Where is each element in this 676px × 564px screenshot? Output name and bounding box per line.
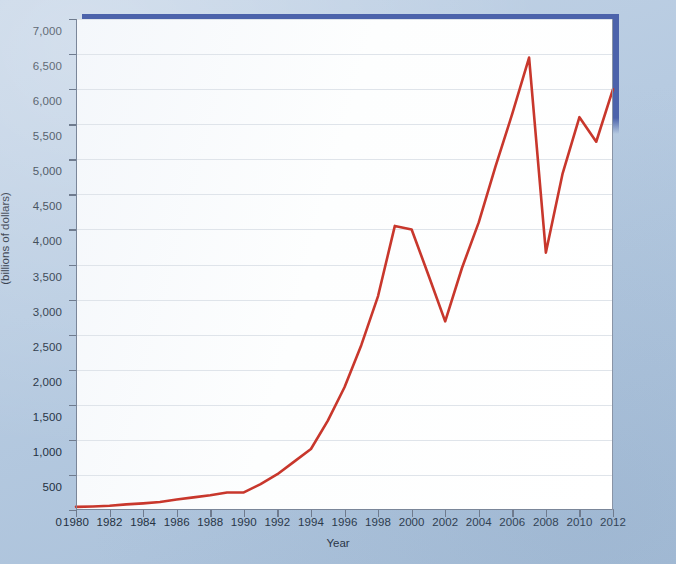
x-axis-tick <box>378 510 379 517</box>
y-axis-tick <box>69 89 76 90</box>
y-axis-line <box>76 19 77 510</box>
y-axis-tick <box>69 300 76 301</box>
x-axis-tick-label: 2006 <box>499 516 525 528</box>
data-series-line <box>76 14 613 510</box>
y-axis-tick <box>69 370 76 371</box>
y-axis-tick-label: 6,000 <box>33 95 62 107</box>
y-axis-tick <box>69 265 76 266</box>
x-axis-tick <box>579 510 580 517</box>
x-axis-tick-label: 1986 <box>164 516 190 528</box>
y-axis-tick-label: 7,000 <box>33 25 62 37</box>
y-axis-tick <box>69 19 76 20</box>
x-axis-tick <box>479 510 480 517</box>
x-axis-tick-label: 1984 <box>130 516 156 528</box>
y-axis-tick-label: 500 <box>43 481 63 493</box>
y-axis-tick <box>69 510 76 511</box>
y-axis-tick-label: 5,500 <box>33 130 62 142</box>
x-axis-tick-label: 2002 <box>432 516 458 528</box>
x-axis-tick <box>210 510 211 517</box>
y-axis-tick-label: 1,000 <box>33 446 62 458</box>
y-axis-tick <box>69 335 76 336</box>
x-axis-tick-label: 2012 <box>600 516 626 528</box>
y-axis-tick-label: 6,500 <box>33 60 62 72</box>
y-axis-title: Value of stocks owned through equity mut… <box>0 9 12 469</box>
y-axis-tick-label: 0 <box>56 516 63 528</box>
chart-figure: 05001,0001,5002,0002,5003,0003,5004,0004… <box>0 0 676 564</box>
x-axis-tick <box>445 510 446 517</box>
plot-frame <box>76 14 613 510</box>
x-axis-tick <box>412 510 413 517</box>
y-axis-tick-label: 1,500 <box>33 411 62 423</box>
x-axis-tick-label: 2008 <box>533 516 559 528</box>
x-axis-tick <box>277 510 278 517</box>
y-axis-tick-label: 3,000 <box>33 306 62 318</box>
y-axis-tick-label: 3,500 <box>33 271 62 283</box>
x-axis-tick-label: 2004 <box>466 516 492 528</box>
y-axis-tick <box>69 54 76 55</box>
x-axis-tick-label: 1998 <box>365 516 391 528</box>
x-axis-tick <box>546 510 547 517</box>
x-axis-tick <box>244 510 245 517</box>
x-axis-tick <box>613 510 614 517</box>
y-axis-tick-label: 2,000 <box>33 376 62 388</box>
x-axis-tick <box>110 510 111 517</box>
x-axis-tick-label: 1988 <box>197 516 223 528</box>
y-axis-tick <box>69 124 76 125</box>
y-axis-tick <box>69 440 76 441</box>
y-axis-tick-label: 2,500 <box>33 341 62 353</box>
y-axis-tick <box>69 194 76 195</box>
x-axis-tick-label: 1982 <box>97 516 123 528</box>
x-axis-line <box>76 509 614 510</box>
x-axis-tick <box>177 510 178 517</box>
x-axis-tick-label: 1990 <box>231 516 257 528</box>
y-axis-tick <box>69 405 76 406</box>
y-axis-tick-label: 4,500 <box>33 200 62 212</box>
x-axis-tick-label: 1980 <box>63 516 89 528</box>
right-axis-line <box>612 19 613 510</box>
x-axis-tick <box>143 510 144 517</box>
y-axis-tick-label: 5,000 <box>33 165 62 177</box>
x-axis-tick <box>311 510 312 517</box>
x-axis-tick-label: 2010 <box>566 516 592 528</box>
x-axis-tick <box>345 510 346 517</box>
y-axis-title-line2: (billions of dollars) <box>0 9 12 469</box>
x-axis-tick-label: 2000 <box>399 516 425 528</box>
y-axis-tick <box>69 229 76 230</box>
y-axis-tick-label: 4,000 <box>33 235 62 247</box>
y-axis-tick <box>69 159 76 160</box>
x-axis-tick <box>76 510 77 517</box>
x-axis-title: Year <box>0 537 676 549</box>
x-axis-tick <box>512 510 513 517</box>
x-axis-tick-label: 1996 <box>332 516 358 528</box>
y-axis-tick <box>69 475 76 476</box>
x-axis-tick-label: 1994 <box>298 516 324 528</box>
x-axis-tick-label: 1992 <box>264 516 290 528</box>
